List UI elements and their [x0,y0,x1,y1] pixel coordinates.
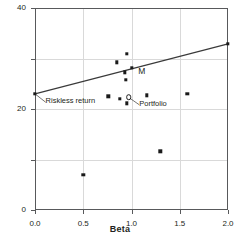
x-axis-tick: 0.5 [83,210,84,214]
data-point [107,95,110,98]
annotation-portfolio: Portfolio [139,100,167,108]
y-axis-tick: 40 [31,8,35,9]
data-point [125,102,128,105]
data-point [118,97,121,100]
y-axis-tick: 0 [31,109,35,110]
data-point [115,61,118,64]
y-axis-tick-label: 20 [17,105,26,113]
y-axis-tick: -20 [31,160,35,161]
y-axis-tick-label: 0 [22,206,26,214]
data-point [33,92,36,95]
plot-border-top [35,8,228,9]
data-point [159,150,162,153]
data-point [123,71,126,74]
annotation-market-portfolio: M [138,67,145,75]
scatter-plot-figure: -40-20020400.00.51.01.52.0Riskless retur… [0,0,240,240]
y-axis-tick: 20 [31,59,35,60]
x-axis-tick: 1.0 [132,210,133,214]
gridline-vertical [83,8,84,210]
x-axis-tick: 2.0 [228,210,229,214]
data-point [186,92,189,95]
x-axis-tick: 1.5 [180,210,181,214]
data-point [125,52,128,55]
x-axis-tick: 0.0 [35,210,36,214]
data-point-portfolio [126,95,132,101]
data-point [124,78,127,81]
data-point [145,93,148,96]
data-point [130,66,133,69]
plot-border-right [227,8,228,210]
gridline-vertical [132,8,133,210]
gridline-vertical [180,8,181,210]
x-axis-title: Beta [0,224,240,234]
data-point [82,173,85,176]
data-point [226,42,229,45]
y-axis-line [35,8,36,210]
plot-area: -40-20020400.00.51.01.52.0Riskless retur… [35,8,228,210]
y-axis-tick-label: 40 [17,4,26,12]
annotation-riskless-return: Riskless return [46,97,96,105]
